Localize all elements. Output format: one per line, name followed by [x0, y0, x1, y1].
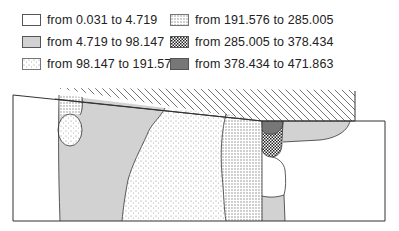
region-pocket-lower — [58, 114, 82, 146]
region-gray-right-bottom — [262, 195, 285, 221]
region-medium-dots — [221, 114, 262, 221]
contour-diagram — [0, 0, 399, 231]
